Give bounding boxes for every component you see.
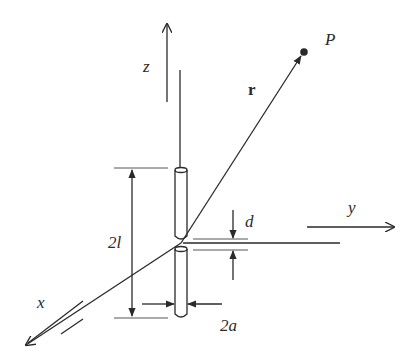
upper-antenna-arm (175, 168, 187, 240)
r-vector-label: r (248, 80, 256, 99)
x-axis-label: x (36, 293, 45, 312)
diameter-label: 2a (220, 316, 237, 335)
x-axis (61, 319, 83, 334)
length-dimension (114, 168, 168, 318)
lower-antenna-arm (175, 247, 187, 318)
point-p-label: P (324, 30, 335, 49)
x-reference-line (26, 243, 181, 345)
gap-dimension (193, 210, 248, 280)
z-axis-label: z (142, 57, 150, 76)
gap-label: d (245, 212, 254, 231)
length-label: 2l (108, 233, 122, 252)
r-vector (181, 56, 301, 243)
dipole-diagram: z P r y x 2l d (0, 0, 414, 358)
y-axis-label: y (346, 198, 356, 217)
point-p-dot (300, 48, 308, 56)
